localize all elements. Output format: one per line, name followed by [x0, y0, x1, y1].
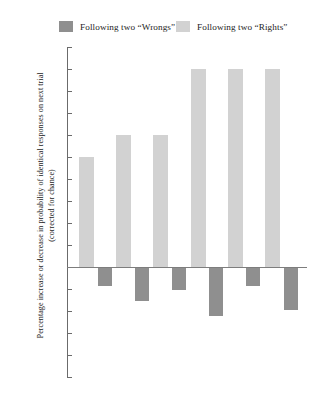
y-axis-title: Percentage increase or decrease in proba…: [35, 55, 58, 355]
y-axis-tick: [68, 69, 72, 70]
bar-rights: [265, 69, 280, 267]
bar-rights: [116, 135, 131, 267]
legend-swatch-rights-icon: [176, 21, 190, 32]
bar-wrongs: [98, 268, 112, 286]
y-axis-tick: [68, 311, 72, 312]
y-axis-tick: [68, 333, 72, 334]
bar-wrongs: [209, 268, 223, 316]
plot-area: 1009080706050403020100–10–20–30–40–50: [67, 47, 307, 378]
bar-rights: [191, 69, 206, 267]
chart-page: Following two “Wrongs” Following two “Ri…: [0, 0, 314, 417]
bar-rights: [153, 135, 168, 267]
legend-label-rights: Following two “Rights”: [197, 22, 288, 32]
legend-item-wrongs: Following two “Wrongs”: [59, 21, 175, 32]
legend-item-rights: Following two “Rights”: [176, 21, 288, 32]
y-axis-tick: [68, 91, 72, 92]
bar-rights: [79, 157, 94, 267]
bar-wrongs: [172, 268, 186, 290]
bar-rights: [228, 69, 243, 267]
legend-swatch-wrongs-icon: [59, 21, 73, 32]
y-axis-tick: [68, 245, 72, 246]
bar-wrongs: [246, 268, 260, 286]
y-axis-spine: [67, 47, 68, 378]
y-axis-tick: [68, 201, 72, 202]
bar-wrongs: [284, 268, 298, 310]
y-axis-tick: [68, 355, 72, 356]
y-axis-tick: [68, 157, 72, 158]
y-axis-tick: [68, 135, 72, 136]
legend-label-wrongs: Following two “Wrongs”: [80, 22, 175, 32]
bar-wrongs: [135, 268, 149, 301]
y-axis-tick: [68, 179, 72, 180]
y-axis-tick: [68, 113, 72, 114]
y-axis-tick: [68, 47, 72, 48]
y-axis-tick: [68, 377, 72, 378]
y-axis-tick: [68, 289, 72, 290]
y-axis-tick: [68, 223, 72, 224]
chart-legend: Following two “Wrongs” Following two “Ri…: [0, 21, 314, 35]
